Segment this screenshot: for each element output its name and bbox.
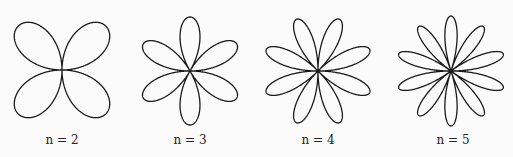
rose-curve-n3 xyxy=(142,17,237,125)
label-n4: n = 4 xyxy=(278,133,358,147)
label-n5: n = 5 xyxy=(413,133,493,147)
rose-curve-n2 xyxy=(14,22,109,117)
label-n3: n = 3 xyxy=(150,133,230,147)
rose-curve-n5 xyxy=(399,16,504,126)
label-n2: n = 2 xyxy=(22,133,102,147)
rose-curve-n4 xyxy=(266,19,370,123)
